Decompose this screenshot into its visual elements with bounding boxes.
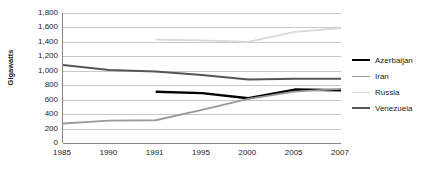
series-line-russia xyxy=(156,28,341,42)
x-axis-tick-labels: 1985199019911995200020052007 xyxy=(62,148,340,162)
x-axis-tick-label: 1991 xyxy=(146,148,164,157)
legend-swatch-icon xyxy=(352,107,370,109)
x-axis-tick-label: 1995 xyxy=(192,148,210,157)
legend-label: Venezuela xyxy=(375,104,412,113)
y-axis-tick-labels: 1,8001,6001,4001,2001,0008006004002000 xyxy=(12,0,58,171)
legend-swatch-icon xyxy=(352,76,370,77)
legend-label: Russia xyxy=(375,88,399,97)
legend-label: Azerbaijan xyxy=(375,56,413,65)
y-axis-tick-label: 1,600 xyxy=(12,23,58,31)
y-axis-tick-label: 1,400 xyxy=(12,38,58,46)
gridline xyxy=(63,143,341,144)
x-axis-tick-label: 2007 xyxy=(331,148,349,157)
y-axis-tick-label: 800 xyxy=(12,81,58,89)
y-axis-tick-label: 0 xyxy=(12,139,58,147)
legend-swatch-icon xyxy=(352,92,370,93)
y-axis-tick-label: 600 xyxy=(12,96,58,104)
y-axis-tick-label: 1,800 xyxy=(12,9,58,17)
y-axis-tick-label: 1,000 xyxy=(12,67,58,75)
legend-item[interactable]: Azerbaijan xyxy=(352,52,427,68)
y-axis-tick-label: 200 xyxy=(12,125,58,133)
chart-legend: AzerbaijanIranRussiaVenezuela xyxy=(352,52,427,116)
series-lines xyxy=(63,13,341,143)
x-axis-tick-label: 1990 xyxy=(99,148,117,157)
legend-item[interactable]: Venezuela xyxy=(352,100,427,116)
legend-swatch-icon xyxy=(352,59,370,61)
line-chart: Gigawatts 1,8001,6001,4001,2001,00080060… xyxy=(0,0,427,171)
y-axis-tick-label: 1,200 xyxy=(12,52,58,60)
x-axis-tick-label: 2000 xyxy=(238,148,256,157)
legend-item[interactable]: Russia xyxy=(352,84,427,100)
legend-label: Iran xyxy=(375,72,389,81)
plot-area xyxy=(62,13,341,143)
x-axis-tick-label: 1985 xyxy=(53,148,71,157)
x-axis-tick-label: 2005 xyxy=(285,148,303,157)
series-line-venezuela xyxy=(63,65,341,79)
legend-item[interactable]: Iran xyxy=(352,68,427,84)
y-axis-tick-label: 400 xyxy=(12,110,58,118)
